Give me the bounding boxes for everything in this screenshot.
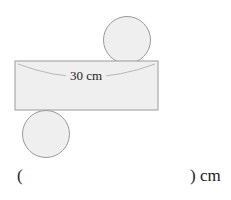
answer-open-paren: ( — [17, 166, 23, 186]
length-label: 30 cm — [70, 68, 102, 83]
answer-unit: ) cm — [190, 166, 221, 186]
top-circle — [104, 17, 151, 64]
bottom-circle — [23, 111, 70, 158]
